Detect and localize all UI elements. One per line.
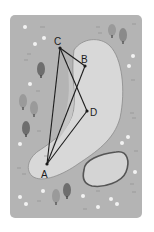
- flower-icon: [18, 142, 22, 146]
- flower-icon: [126, 135, 130, 139]
- flower-icon: [28, 82, 32, 86]
- flower-icon: [127, 64, 131, 68]
- flower-icon: [18, 195, 22, 199]
- flower-icon: [96, 205, 100, 209]
- point-D: [85, 109, 88, 112]
- label-A: A: [41, 169, 48, 180]
- flower-icon: [42, 36, 46, 40]
- flower-icon: [81, 194, 85, 198]
- flower-icon: [109, 197, 113, 201]
- flower-icon: [23, 25, 27, 29]
- golf-course-diagram: A B C D: [0, 0, 154, 232]
- label-C: C: [54, 36, 61, 47]
- point-A: [45, 162, 48, 165]
- flower-icon: [131, 54, 135, 58]
- diagram-canvas: A B C D: [0, 0, 154, 232]
- flower-icon: [120, 141, 124, 145]
- flower-icon: [115, 202, 119, 206]
- flower-icon: [41, 189, 45, 193]
- label-B: B: [81, 54, 88, 65]
- label-D: D: [90, 107, 97, 118]
- flower-icon: [133, 170, 137, 174]
- flower-icon: [24, 202, 28, 206]
- flower-icon: [33, 42, 37, 46]
